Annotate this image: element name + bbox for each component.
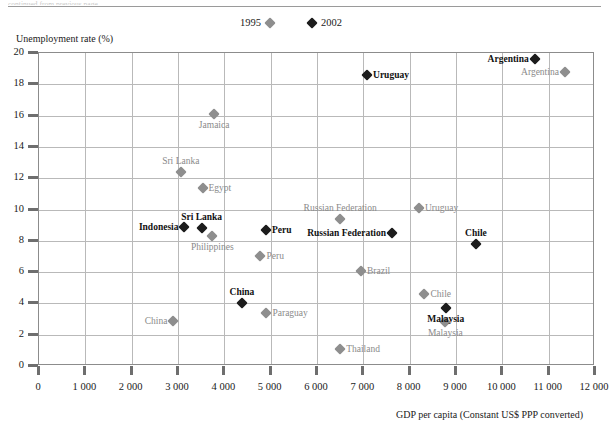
- data-point-marker[interactable]: [386, 227, 397, 238]
- gridline-horizontal: [39, 303, 593, 304]
- legend-entry-1995: 1995: [240, 17, 274, 29]
- page-top-partial-text: continued from previous page: [8, 0, 601, 5]
- gridline-horizontal: [39, 116, 593, 117]
- data-point-marker[interactable]: [413, 202, 424, 213]
- y-axis-tick-mark: [28, 333, 38, 336]
- x-axis-tick-mark: [593, 366, 596, 375]
- y-axis-tick-mark: [28, 364, 38, 367]
- y-axis-tick-mark: [28, 208, 38, 211]
- gridline-vertical: [85, 53, 86, 364]
- y-axis-tick-label: 12: [0, 171, 24, 182]
- data-point-label: Malaysia: [427, 314, 464, 325]
- y-axis-tick-label: 2: [0, 328, 24, 339]
- data-point-label: China: [230, 287, 255, 298]
- data-point-marker[interactable]: [419, 288, 430, 299]
- data-point-label: Uruguay: [373, 69, 409, 80]
- x-axis-tick-mark: [269, 366, 272, 375]
- legend-label-1995: 1995: [240, 17, 261, 29]
- legend-label-2002: 2002: [321, 17, 342, 29]
- data-point-marker[interactable]: [255, 251, 266, 262]
- gridline-vertical: [410, 53, 411, 364]
- y-axis-tick-label: 4: [0, 296, 24, 307]
- data-point-marker[interactable]: [175, 166, 186, 177]
- y-axis-tick-mark: [28, 301, 38, 304]
- x-axis-tick-mark: [130, 366, 133, 375]
- gridline-horizontal: [39, 335, 593, 336]
- y-axis-title: Unemployment rate (%): [16, 33, 113, 45]
- x-axis-tick-label: 3 000: [165, 381, 189, 393]
- data-point-label: Brazil: [367, 265, 390, 276]
- data-point-label: Argentina: [488, 54, 529, 65]
- data-point-label: Jamaica: [199, 120, 230, 131]
- gridline-vertical: [132, 53, 133, 364]
- gridline-vertical: [224, 53, 225, 364]
- x-axis-tick-mark: [83, 366, 86, 375]
- gridline-vertical: [178, 53, 179, 364]
- data-point-label: Chile: [465, 227, 487, 238]
- data-point-label: Russian Federation: [307, 227, 386, 238]
- y-axis-tick-label: 8: [0, 234, 24, 245]
- x-axis-tick-mark: [454, 366, 457, 375]
- data-point-label: Argentina: [521, 66, 559, 77]
- data-point-label: Egypt: [209, 182, 232, 193]
- y-axis-tick-mark: [28, 51, 38, 54]
- legend-marker-2002-diamond-icon: [306, 17, 317, 28]
- data-point-marker[interactable]: [208, 108, 219, 119]
- chart-legend: 1995 2002: [240, 17, 342, 29]
- x-axis-tick-mark: [222, 366, 225, 375]
- x-axis-tick-mark: [547, 366, 550, 375]
- data-point-label: Malaysia: [428, 328, 463, 339]
- data-point-marker[interactable]: [355, 265, 366, 276]
- y-axis-tick-label: 10: [0, 203, 24, 214]
- gridline-horizontal: [39, 272, 593, 273]
- data-point-label: Indonesia: [139, 221, 179, 232]
- data-point-marker[interactable]: [236, 298, 247, 309]
- x-axis-tick-label: 12 000: [580, 381, 609, 393]
- data-point-marker[interactable]: [559, 66, 570, 77]
- x-axis-tick-mark: [176, 366, 179, 375]
- data-point-marker[interactable]: [529, 54, 540, 65]
- y-axis-tick-label: 20: [0, 46, 24, 57]
- x-axis-tick-label: 1 000: [73, 381, 97, 393]
- data-point-label: Chile: [430, 289, 451, 300]
- data-point-label: Peru: [272, 224, 292, 235]
- x-axis-tick-mark: [408, 366, 411, 375]
- x-axis-tick-label: 10 000: [487, 381, 516, 393]
- page-top-rule: [8, 6, 601, 7]
- y-axis-tick-mark: [28, 82, 38, 85]
- data-point-marker[interactable]: [197, 182, 208, 193]
- data-point-label: China: [145, 316, 168, 327]
- y-axis-tick-mark: [28, 114, 38, 117]
- data-point-label: Sri Lanka: [162, 155, 199, 166]
- y-axis-tick-label: 16: [0, 109, 24, 120]
- x-axis-tick-label: 11 000: [533, 381, 562, 393]
- y-axis-tick-label: 18: [0, 77, 24, 88]
- y-axis-tick-mark: [28, 270, 38, 273]
- gridline-horizontal: [39, 84, 593, 85]
- gridline-vertical: [549, 53, 550, 364]
- x-axis-tick-label: 4 000: [212, 381, 236, 393]
- x-axis-title: GDP per capita (Constant US$ PPP convert…: [396, 409, 583, 421]
- y-axis-tick-label: 0: [0, 359, 24, 370]
- x-axis-tick-label: 2 000: [119, 381, 143, 393]
- data-point-marker[interactable]: [196, 223, 207, 234]
- gridline-horizontal: [39, 147, 593, 148]
- y-axis-tick-label: 14: [0, 140, 24, 151]
- y-axis-tick-mark: [28, 239, 38, 242]
- data-point-label: Russian Federation: [304, 202, 377, 213]
- plot-area: ArgentinaJamaicaSri LankaEgyptUruguayRus…: [38, 52, 594, 365]
- legend-entry-2002: 2002: [308, 17, 342, 29]
- data-point-label: Paraguay: [272, 307, 307, 318]
- y-axis-tick-label: 6: [0, 265, 24, 276]
- gridline-horizontal: [39, 178, 593, 179]
- x-axis-tick-label: 5 000: [258, 381, 282, 393]
- data-point-marker[interactable]: [334, 213, 345, 224]
- x-axis-tick-mark: [315, 366, 318, 375]
- x-axis-tick-label: 8 000: [397, 381, 421, 393]
- data-point-label: Philippines: [191, 242, 234, 253]
- y-axis-tick-mark: [28, 145, 38, 148]
- data-point-label: Peru: [266, 251, 283, 262]
- data-point-marker[interactable]: [334, 343, 345, 354]
- gridline-horizontal: [39, 241, 593, 242]
- data-point-label: Thailand: [346, 343, 380, 354]
